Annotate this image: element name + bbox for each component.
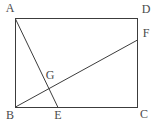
vertex-label-c: C — [138, 108, 150, 120]
geometry-figure: A D F G B E C — [0, 0, 163, 128]
segment-AE — [16, 19, 59, 108]
vertex-label-f: F — [140, 27, 152, 39]
vertex-label-d: D — [140, 3, 152, 15]
rectangle-abcd — [15, 19, 138, 108]
vertex-label-g: G — [44, 69, 56, 81]
segment-BF — [16, 40, 138, 107]
inner-segments — [16, 19, 138, 108]
vertex-label-e: E — [52, 109, 64, 121]
vertex-label-b: B — [4, 109, 16, 121]
vertex-label-a: A — [4, 2, 16, 14]
